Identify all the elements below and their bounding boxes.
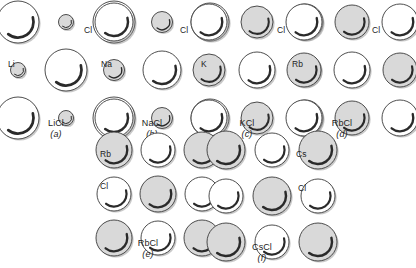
panel-caption-e: RbCl(e) <box>104 238 192 260</box>
compound-formula: NaCl <box>104 118 200 129</box>
structure-panel-d: RbClRbCl(d) <box>294 14 390 140</box>
cation-sphere-Cs <box>253 177 293 217</box>
anion-label-cl: Cl <box>100 182 108 191</box>
cation-sphere-Na <box>152 12 175 35</box>
cation-label-na: Na <box>101 60 112 69</box>
structure-panel-b: NaClNaCl(b) <box>104 14 200 140</box>
anion-sphere-Cl <box>301 179 337 215</box>
anion-label-cl: Cl <box>372 26 380 35</box>
cation-sphere-K <box>193 54 227 88</box>
panel-caption-a: LiCl(a) <box>8 118 104 140</box>
lattice-f <box>216 142 334 248</box>
panel-tag: (f) <box>216 253 308 264</box>
panel-caption-f: CsCl(f) <box>216 242 308 264</box>
cation-label-li: Li <box>8 60 15 69</box>
cation-label-cs: Cs <box>296 150 306 159</box>
cation-sphere-Li <box>59 15 76 32</box>
anion-sphere-Cl <box>45 49 89 93</box>
lattice-e <box>104 142 218 244</box>
cation-sphere-Rb <box>383 53 416 89</box>
compound-formula: CsCl <box>216 242 308 253</box>
structure-panel-f: CsClCsCl(f) <box>216 142 308 264</box>
ionic-crystal-structures-figure: LiClLiCl(a)NaClNaCl(b)KClKCl(c)RbClRbCl(… <box>0 0 416 268</box>
anion-label-cl: Cl <box>84 26 92 35</box>
anion-label-cl: Cl <box>180 26 188 35</box>
structure-panel-e: RbClRbCl(e) <box>104 142 192 260</box>
anion-sphere-Cl <box>239 52 277 90</box>
compound-formula: LiCl <box>8 118 104 129</box>
anion-sphere-Cl <box>382 4 416 42</box>
structure-panel-c: KClKCl(c) <box>199 14 295 140</box>
cation-label-rb: Rb <box>292 60 303 69</box>
anion-sphere-Cl <box>0 1 41 45</box>
panel-tag: (a) <box>8 129 104 140</box>
anion-label-cl: Cl <box>298 184 306 193</box>
panel-tag: (e) <box>104 249 192 260</box>
cation-label-k: K <box>201 60 207 69</box>
compound-formula: RbCl <box>104 238 192 249</box>
cation-sphere-Rb <box>140 176 178 214</box>
cation-sphere-K <box>241 6 275 40</box>
cation-label-rb: Rb <box>100 150 111 159</box>
anion-label-cl: Cl <box>277 26 285 35</box>
cation-sphere-Rb <box>335 5 371 41</box>
anion-sphere-Cl <box>334 52 372 90</box>
structure-panel-a: LiClLiCl(a) <box>8 14 104 140</box>
compound-formula: KCl <box>199 118 295 129</box>
lattice-d <box>294 14 416 124</box>
compound-formula: RbCl <box>294 118 390 129</box>
anion-sphere-Cl <box>143 51 183 91</box>
